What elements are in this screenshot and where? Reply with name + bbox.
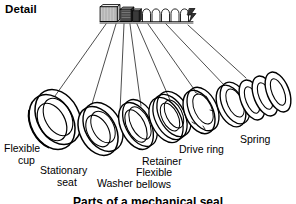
label-flexible-bellows-line1: Flexible <box>136 167 172 179</box>
label-flexible-bellows-line2: bellows <box>136 179 171 191</box>
figure-caption: Parts of a mechanical seal <box>0 195 296 204</box>
label-spring: Spring <box>240 134 270 146</box>
label-stationary-seat-line2: seat <box>57 177 77 189</box>
label-stationary-seat-line1: Stationary <box>40 165 87 177</box>
label-flexible-cup-line2: cup <box>18 155 35 167</box>
assembled-seal-group <box>100 5 196 24</box>
label-retainer: Retainer <box>142 156 182 168</box>
label-flexible-cup-line1: Flexible <box>4 143 40 155</box>
label-drive-ring: Drive ring <box>179 144 224 156</box>
page-title: Detail <box>5 3 37 16</box>
label-washer: Washer <box>97 178 133 190</box>
detail-figure: Detail Flexible cup Stationary seat Wash… <box>0 0 296 204</box>
